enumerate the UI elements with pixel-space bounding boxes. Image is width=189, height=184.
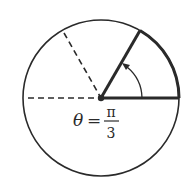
fraction-numerator: π bbox=[106, 104, 115, 120]
dashed-diagonal-radius bbox=[64, 33, 101, 98]
fraction-denominator: 3 bbox=[107, 125, 116, 141]
equals-sign: = bbox=[87, 110, 101, 130]
angle-arc bbox=[127, 67, 142, 98]
radian-angle-diagram: θ = π 3 bbox=[0, 0, 189, 184]
terminal-radius bbox=[101, 31, 140, 99]
center-point bbox=[98, 95, 104, 101]
subtended-arc bbox=[140, 31, 179, 99]
theta-symbol: θ bbox=[73, 110, 83, 130]
